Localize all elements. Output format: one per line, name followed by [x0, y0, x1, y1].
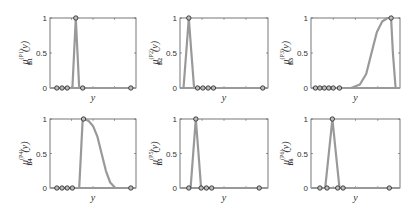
data-marker — [325, 186, 329, 190]
y-axis-label: μ(P5)B5(y) — [148, 141, 163, 166]
data-marker — [322, 86, 326, 90]
y-tick-label: 0.5 — [297, 49, 309, 58]
y-tick-label: 0.5 — [166, 150, 178, 159]
y-tick-label: 1 — [173, 14, 178, 23]
y-tick-label: 0.5 — [36, 49, 48, 58]
y-tick-label: 1 — [304, 115, 309, 124]
y-axis-label: μ(P3)B3(y) — [279, 40, 294, 65]
data-marker — [60, 86, 64, 90]
y-tick-label: 0.5 — [36, 150, 48, 159]
data-marker — [204, 186, 208, 190]
x-axis-label: y — [90, 192, 96, 203]
data-marker — [60, 186, 64, 190]
axes-frame — [311, 18, 400, 88]
subplot-4: 00.51yμ(P4)B4(y) — [18, 115, 136, 203]
data-marker — [129, 186, 133, 190]
membership-curve — [180, 119, 268, 188]
data-marker — [81, 117, 85, 121]
data-marker — [70, 186, 74, 190]
y-axis-label: μ(P4)B4(y) — [18, 141, 33, 166]
axes-frame — [50, 119, 136, 188]
data-marker — [336, 186, 340, 190]
data-marker — [65, 186, 69, 190]
axes-frame — [50, 18, 136, 88]
figure-grid: 00.51yμ(P1)B1(y)00.51yμ(P2)B2(y)00.51yμ(… — [0, 0, 409, 210]
y-tick-label: 0 — [43, 84, 48, 93]
data-marker — [187, 186, 191, 190]
subplot-5: 00.51yμ(P5)B5(y) — [148, 115, 268, 203]
data-marker — [318, 86, 322, 90]
data-marker — [313, 86, 317, 90]
y-tick-label: 1 — [43, 115, 48, 124]
data-marker — [209, 186, 213, 190]
data-marker — [337, 86, 341, 90]
chart-svg: 00.51yμ(P1)B1(y)00.51yμ(P2)B2(y)00.51yμ(… — [0, 0, 409, 210]
subplot-1: 00.51yμ(P1)B1(y) — [18, 14, 136, 103]
data-marker — [331, 86, 335, 90]
axes-frame — [311, 119, 400, 188]
data-marker — [129, 86, 133, 90]
data-marker — [187, 16, 191, 20]
y-axis-label: μ(P6)B6(y) — [279, 141, 294, 166]
membership-curve — [311, 119, 400, 188]
data-marker — [206, 86, 210, 90]
y-tick-label: 1 — [304, 14, 309, 23]
x-axis-label: y — [352, 192, 358, 203]
data-marker — [195, 86, 199, 90]
y-tick-label: 0 — [304, 184, 309, 193]
subplot-6: 00.51yμ(P6)B6(y) — [279, 115, 400, 203]
y-tick-label: 0 — [304, 84, 309, 93]
subplot-3: 00.51yμ(P3)B3(y) — [279, 14, 400, 103]
data-marker — [65, 86, 69, 90]
membership-curve — [180, 18, 268, 88]
y-tick-label: 0.5 — [297, 150, 309, 159]
data-marker — [80, 86, 84, 90]
data-marker — [211, 86, 215, 90]
data-marker — [74, 16, 78, 20]
subplot-2: 00.51yμ(P2)B2(y) — [148, 14, 268, 103]
data-marker — [341, 186, 345, 190]
data-marker — [257, 186, 261, 190]
x-axis-label: y — [221, 192, 227, 203]
membership-curve — [311, 18, 400, 88]
y-tick-label: 0 — [43, 184, 48, 193]
data-marker — [261, 86, 265, 90]
y-tick-label: 0 — [173, 184, 178, 193]
x-axis-label: y — [352, 92, 358, 103]
y-tick-label: 1 — [173, 115, 178, 124]
data-marker — [330, 117, 334, 121]
data-marker — [387, 186, 391, 190]
data-marker — [199, 186, 203, 190]
y-axis-label: μ(P2)B2(y) — [148, 40, 163, 65]
data-marker — [327, 86, 331, 90]
data-marker — [389, 16, 393, 20]
x-axis-label: y — [221, 92, 227, 103]
y-tick-label: 1 — [43, 14, 48, 23]
data-marker — [318, 186, 322, 190]
membership-curve — [50, 119, 136, 188]
y-axis-label: μ(P1)B1(y) — [18, 40, 33, 65]
data-marker — [194, 117, 198, 121]
membership-curve — [50, 18, 136, 88]
data-marker — [55, 86, 59, 90]
data-marker — [201, 86, 205, 90]
y-tick-label: 0.5 — [166, 49, 178, 58]
y-tick-label: 0 — [173, 84, 178, 93]
data-marker — [55, 186, 59, 190]
x-axis-label: y — [90, 92, 96, 103]
